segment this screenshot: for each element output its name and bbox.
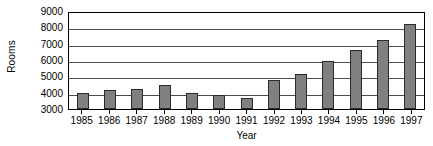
bar[interactable] [186, 93, 198, 109]
bar[interactable] [295, 74, 307, 109]
x-axis-tick-mark [164, 110, 165, 114]
bar-slot [288, 13, 315, 109]
x-axis-tick-mark [274, 110, 275, 114]
x-axis-tick-slot [178, 110, 205, 114]
x-axis-tick-labels: 1985198619871988198919901991199219931994… [68, 115, 425, 128]
x-axis-tick-label: 1995 [343, 115, 370, 128]
y-axis-tick-label: 4000 [19, 89, 63, 99]
bar-slot [397, 13, 424, 109]
y-axis-tick-label: 8000 [19, 23, 63, 33]
x-axis-tick-mark [219, 110, 220, 114]
bar[interactable] [77, 93, 89, 109]
y-axis-tick-label: 7000 [19, 40, 63, 50]
bar-slot [342, 13, 369, 109]
x-axis-tick-mark [301, 110, 302, 114]
bar[interactable] [350, 50, 362, 109]
x-axis-tick-slot [315, 110, 342, 114]
x-axis-tick-slot [398, 110, 425, 114]
x-axis-tick-label: 1993 [288, 115, 315, 128]
x-axis-tick-slot [260, 110, 287, 114]
x-axis-tick-mark [246, 110, 247, 114]
bar[interactable] [322, 61, 334, 109]
bar[interactable] [131, 89, 143, 109]
bar[interactable] [241, 98, 253, 109]
x-axis-tick-label: 1996 [370, 115, 397, 128]
x-axis-tick-slot [123, 110, 150, 114]
x-axis-tick-slot [68, 110, 95, 114]
x-axis-tick-label: 1988 [150, 115, 177, 128]
bar[interactable] [268, 80, 280, 109]
x-axis-tick-label: 1992 [260, 115, 287, 128]
x-axis-tick-label: 1997 [398, 115, 425, 128]
y-axis-tick-labels: 3000400050006000700080009000 [20, 12, 66, 110]
x-axis-tick-slot [343, 110, 370, 114]
bar-slot [233, 13, 260, 109]
x-axis-tick-label: 1986 [95, 115, 122, 128]
bar[interactable] [104, 90, 116, 109]
x-axis-tick-mark [411, 110, 412, 114]
bar-slot [369, 13, 396, 109]
bar[interactable] [213, 95, 225, 109]
x-axis-tick-label: 1989 [178, 115, 205, 128]
x-axis-tick-label: 1994 [315, 115, 342, 128]
x-axis-tick-label: 1987 [123, 115, 150, 128]
x-axis-tick-label: 1985 [68, 115, 95, 128]
y-axis-tick-label: 5000 [19, 72, 63, 82]
y-axis-tick-label: 9000 [19, 7, 63, 17]
plot-area [68, 12, 425, 110]
x-axis-title: Year [68, 130, 425, 141]
bar-slot [206, 13, 233, 109]
bar[interactable] [404, 24, 416, 109]
x-axis-tick-slot [150, 110, 177, 114]
x-axis-tick-slot [95, 110, 122, 114]
bar-slot [69, 13, 96, 109]
bar-slot [151, 13, 178, 109]
bar-slot [315, 13, 342, 109]
x-axis-tick-mark [109, 110, 110, 114]
x-axis-tick-mark [356, 110, 357, 114]
x-axis-tick-mark [383, 110, 384, 114]
bar-series [69, 13, 424, 109]
x-axis-tick-label: 1991 [233, 115, 260, 128]
x-axis-tick-mark [81, 110, 82, 114]
x-axis-tick-slot [288, 110, 315, 114]
y-axis-tick-label: 6000 [19, 56, 63, 66]
y-axis-tick-label: 3000 [19, 105, 63, 115]
x-axis-tick-slot [370, 110, 397, 114]
bar-slot [178, 13, 205, 109]
bar-slot [124, 13, 151, 109]
bar-slot [260, 13, 287, 109]
bar-chart: Rooms 3000400050006000700080009000 19851… [0, 0, 433, 146]
y-axis-title-text: Rooms [6, 40, 17, 73]
x-axis-tick-mark [136, 110, 137, 114]
x-axis-tick-marks [68, 110, 425, 114]
bar-slot [96, 13, 123, 109]
x-axis-tick-label: 1990 [205, 115, 232, 128]
bar[interactable] [159, 85, 171, 109]
bar[interactable] [377, 40, 389, 109]
x-axis-tick-slot [233, 110, 260, 114]
x-axis-tick-mark [328, 110, 329, 114]
x-axis-tick-slot [205, 110, 232, 114]
x-axis-tick-mark [191, 110, 192, 114]
